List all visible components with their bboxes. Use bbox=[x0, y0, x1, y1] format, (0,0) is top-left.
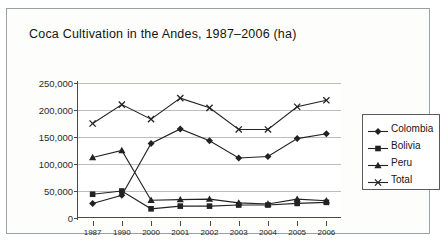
legend-item-peru[interactable]: Peru bbox=[367, 154, 435, 171]
x-axis-labels: 198719902000200120022003200420052006 bbox=[78, 221, 341, 241]
legend-marker-square-icon bbox=[367, 140, 389, 151]
x-axis-tick-label: 2005 bbox=[288, 228, 306, 237]
legend-item-bolivia[interactable]: Bolivia bbox=[367, 137, 435, 154]
x-axis-tick bbox=[210, 221, 211, 226]
x-axis-tick-label: 2002 bbox=[201, 228, 219, 237]
y-axis-tick-label: 200,000 bbox=[39, 105, 73, 116]
plot-area bbox=[78, 83, 341, 218]
x-axis-tick-label: 2004 bbox=[259, 228, 277, 237]
y-axis-tick-label: 150,000 bbox=[39, 132, 73, 143]
legend-label: Total bbox=[391, 174, 412, 185]
series-total bbox=[90, 95, 330, 133]
y-axis-tick-label: 250,000 bbox=[39, 78, 73, 89]
legend-item-total[interactable]: Total bbox=[367, 171, 435, 188]
chart-title: Coca Cultivation in the Andes, 1987–2006… bbox=[29, 27, 297, 41]
x-axis-tick-label: 2006 bbox=[317, 228, 335, 237]
x-axis-tick-label: 2003 bbox=[230, 228, 248, 237]
x-axis-tick bbox=[122, 221, 123, 226]
x-axis-tick bbox=[151, 221, 152, 226]
legend-label: Colombia bbox=[391, 123, 433, 134]
x-axis-tick bbox=[297, 221, 298, 226]
x-axis-tick bbox=[268, 221, 269, 226]
legend-marker-triangle-icon bbox=[367, 157, 389, 168]
data-series-layer bbox=[78, 83, 341, 218]
y-axis-tick-label: 0 bbox=[68, 213, 73, 224]
y-axis-tick bbox=[74, 83, 78, 84]
x-axis-tick-label: 2000 bbox=[142, 228, 160, 237]
y-axis-tick-label: 100,000 bbox=[39, 159, 73, 170]
x-axis-tick-label: 1990 bbox=[113, 228, 131, 237]
y-axis-tick bbox=[74, 191, 78, 192]
legend-item-colombia[interactable]: Colombia bbox=[367, 120, 435, 137]
series-peru bbox=[89, 147, 330, 207]
series-colombia bbox=[89, 125, 330, 207]
legend-marker-cross-icon bbox=[367, 174, 389, 185]
x-axis-tick bbox=[326, 221, 327, 226]
y-axis-tick bbox=[74, 110, 78, 111]
y-axis-tick bbox=[74, 137, 78, 138]
y-axis-tick bbox=[74, 164, 78, 165]
x-axis-tick-label: 1987 bbox=[84, 228, 102, 237]
x-axis-tick bbox=[239, 221, 240, 226]
x-axis-tick-label: 2001 bbox=[171, 228, 189, 237]
y-axis-tick bbox=[74, 218, 78, 219]
chart-frame: Coca Cultivation in the Andes, 1987–2006… bbox=[6, 8, 430, 234]
x-axis-tick bbox=[180, 221, 181, 226]
legend-label: Bolivia bbox=[391, 140, 420, 151]
chart-legend: ColombiaBoliviaPeruTotal bbox=[362, 114, 440, 190]
legend-marker-diamond-icon bbox=[367, 123, 389, 134]
y-axis-labels: 050,000100,000150,000200,000250,000 bbox=[7, 83, 73, 218]
x-axis-tick bbox=[93, 221, 94, 226]
y-axis-tick-label: 50,000 bbox=[44, 186, 73, 197]
legend-label: Peru bbox=[391, 157, 412, 168]
